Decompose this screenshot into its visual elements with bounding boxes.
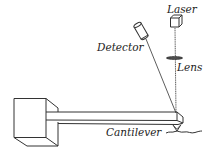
- reflected-beam: [146, 39, 176, 113]
- label-laser: Laser: [167, 4, 197, 15]
- laser-beam: [175, 28, 176, 113]
- laser-icon: [171, 15, 183, 27]
- base-block: [14, 99, 58, 147]
- label-cantilever: Cantilever: [106, 127, 161, 138]
- lens-icon: [167, 57, 183, 60]
- label-detector: Detector: [97, 42, 144, 53]
- label-lens: Lens: [177, 62, 202, 73]
- detector-icon: [133, 22, 149, 41]
- sample-surface: [166, 131, 202, 133]
